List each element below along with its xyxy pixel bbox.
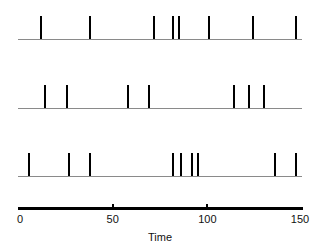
spike-marker	[180, 153, 182, 176]
spike-marker	[248, 85, 250, 108]
spike-marker	[208, 16, 210, 39]
spike-marker	[191, 153, 193, 176]
axis-tick-label: 50	[107, 213, 119, 226]
spike-marker	[89, 16, 91, 39]
row-baseline	[18, 39, 302, 40]
spike-marker	[178, 16, 180, 39]
axis-tick-label: 100	[198, 213, 216, 226]
spike-row-2	[0, 69, 320, 109]
row-baseline	[18, 108, 302, 109]
spike-row-3	[0, 137, 320, 177]
axis-line	[18, 207, 303, 210]
axis-tick	[112, 204, 114, 207]
axis-tick	[206, 204, 208, 207]
spike-marker	[233, 85, 235, 108]
spike-raster-plot: 050100150 Time	[0, 0, 320, 250]
spike-marker	[197, 153, 199, 176]
spike-marker	[28, 153, 30, 176]
spike-marker	[127, 85, 129, 108]
spike-marker	[295, 153, 297, 176]
spike-marker	[263, 85, 265, 108]
spike-marker	[153, 16, 155, 39]
axis-tick-label: 150	[291, 213, 309, 226]
spike-marker	[148, 85, 150, 108]
spike-marker	[295, 16, 297, 39]
spike-marker	[44, 85, 46, 108]
spike-row-1	[0, 0, 320, 40]
spike-marker	[89, 153, 91, 176]
spike-marker	[40, 16, 42, 39]
spike-marker	[172, 16, 174, 39]
spike-marker	[252, 16, 254, 39]
spike-marker	[68, 153, 70, 176]
axis-tick-label: 0	[17, 213, 23, 226]
spike-marker	[66, 85, 68, 108]
spike-marker	[274, 153, 276, 176]
axis-title-time: Time	[0, 231, 320, 244]
spike-marker	[172, 153, 174, 176]
row-baseline	[18, 176, 302, 177]
